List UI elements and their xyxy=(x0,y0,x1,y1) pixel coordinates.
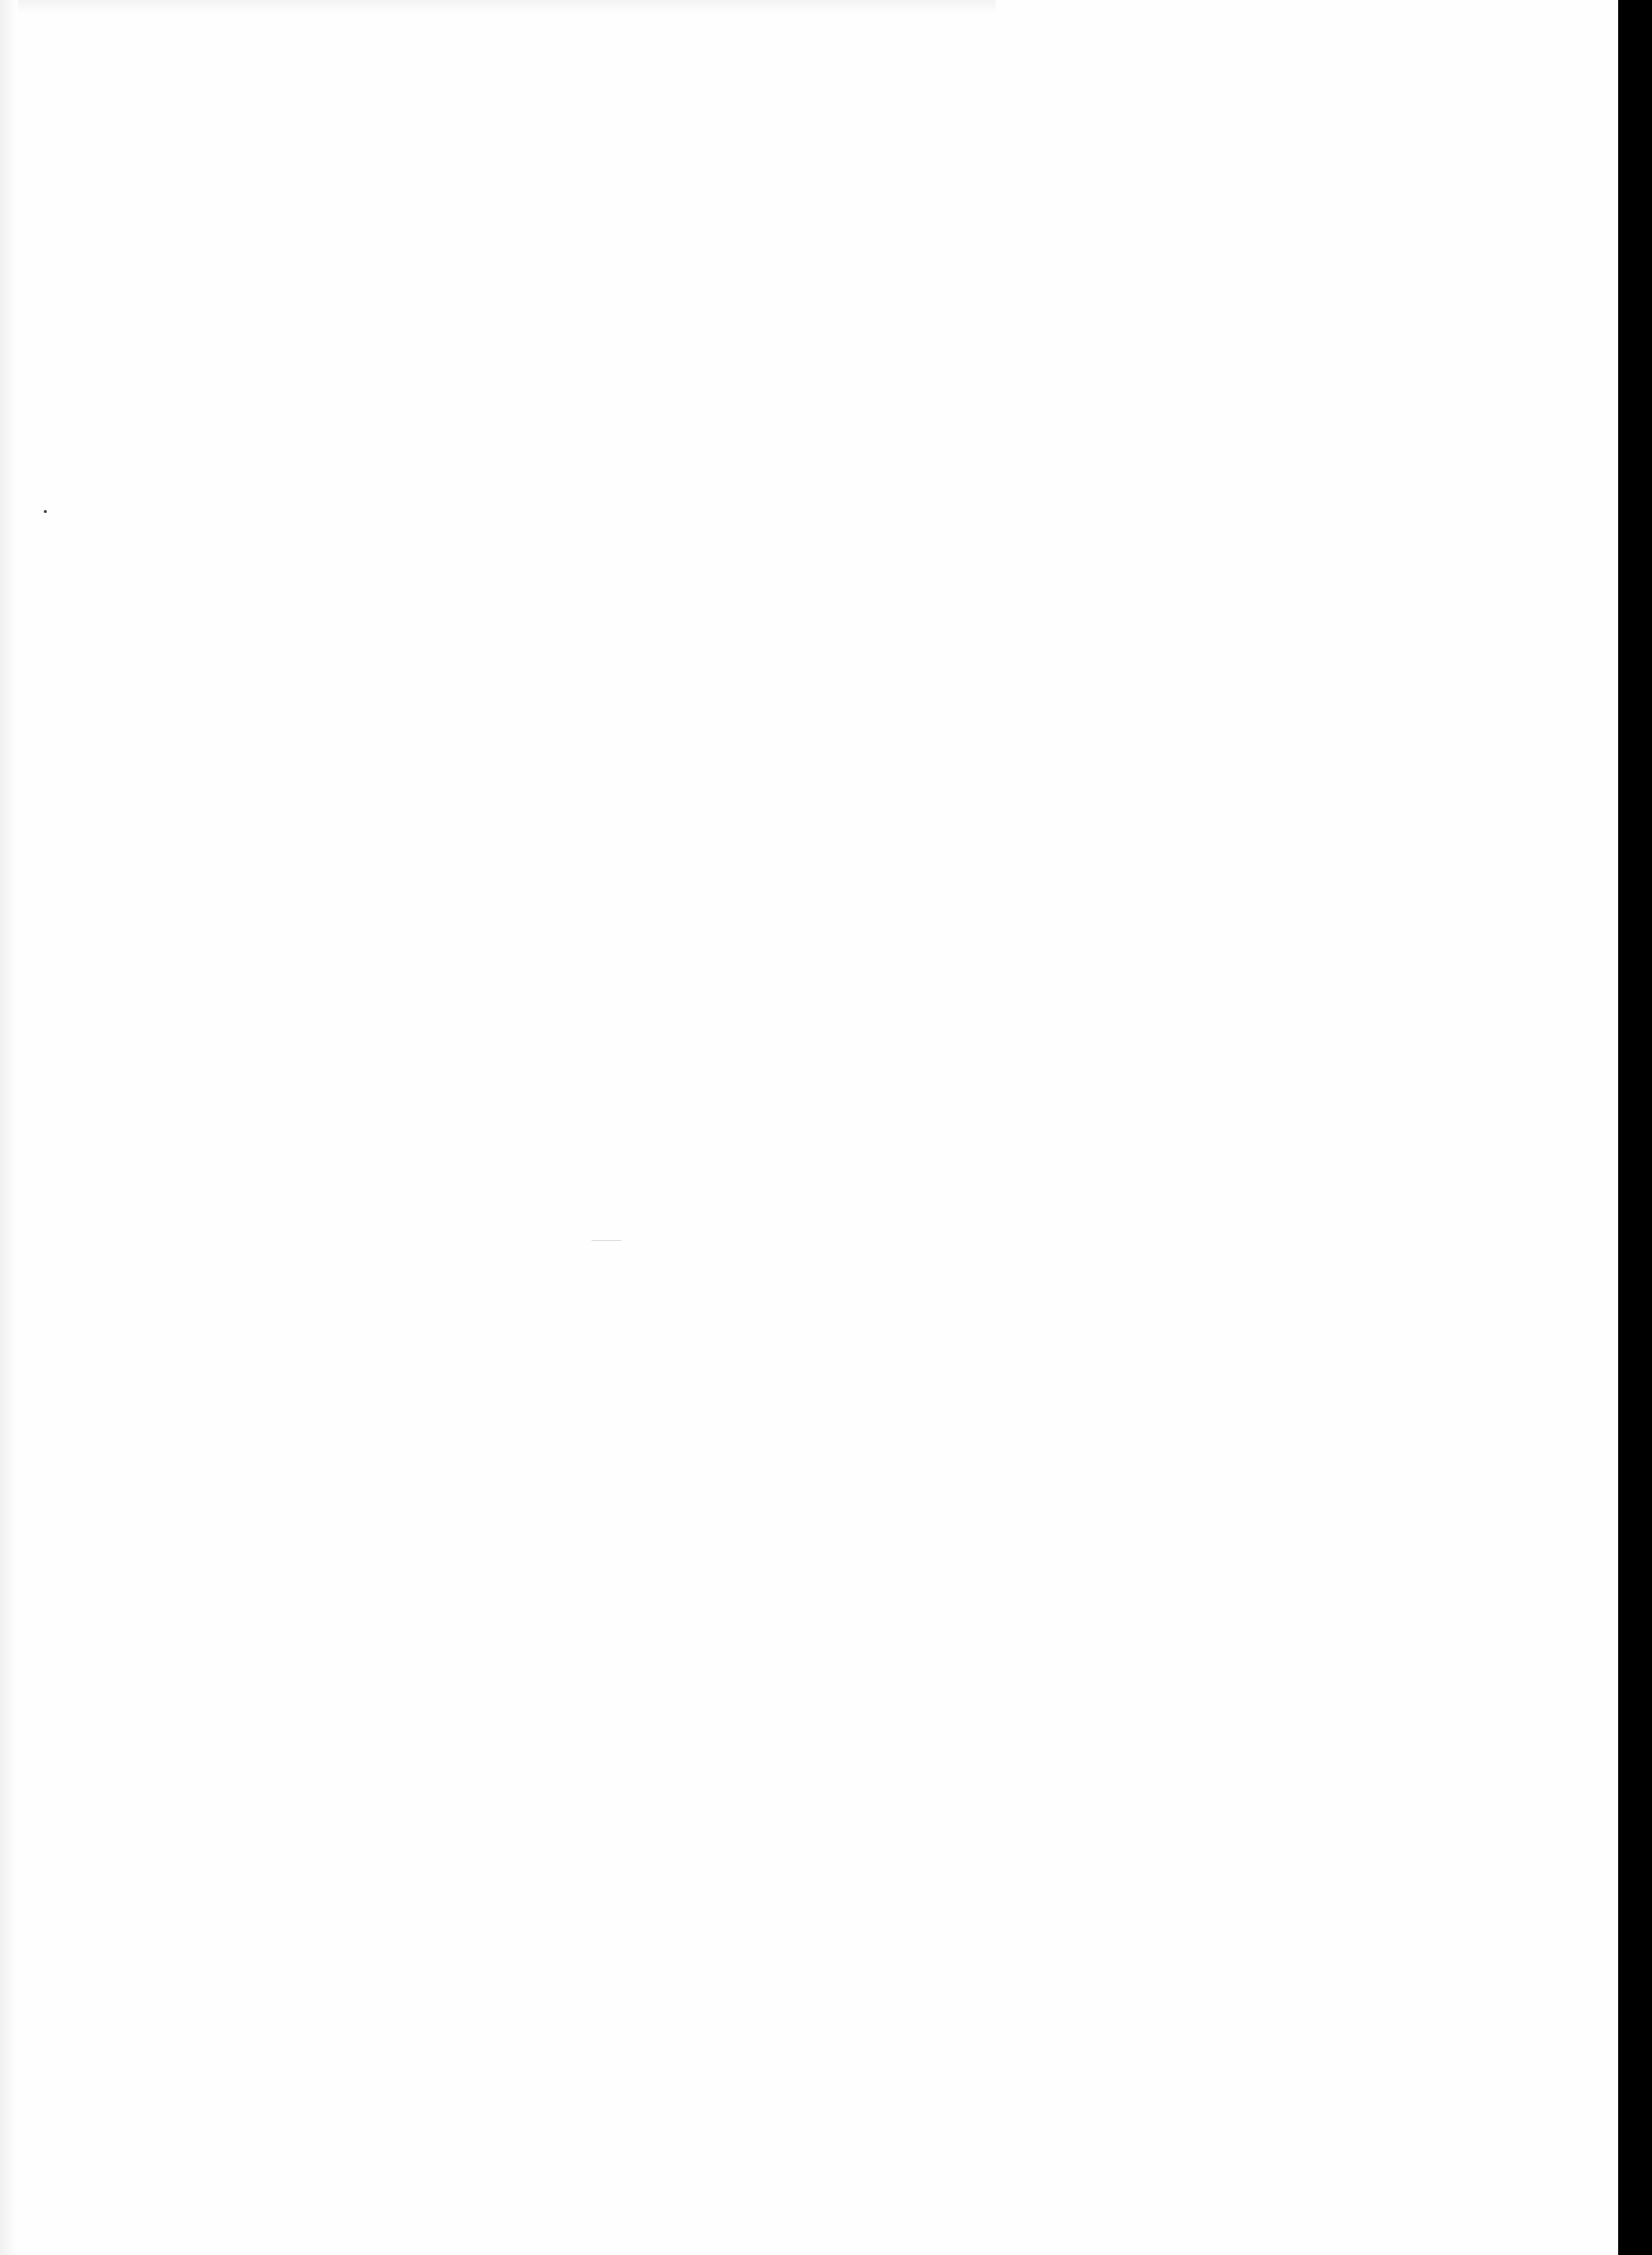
blank-page xyxy=(0,0,1618,2255)
speck xyxy=(44,510,47,513)
scan-noise-top xyxy=(0,0,996,14)
faint-mark xyxy=(591,1240,621,1241)
scan-noise-left xyxy=(0,0,18,2255)
scanner-edge-shadow xyxy=(1618,0,1652,2255)
